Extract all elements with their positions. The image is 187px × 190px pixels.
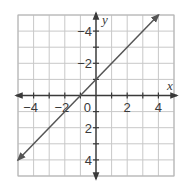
origin-label: 0: [84, 100, 91, 115]
y-axis-label: y: [100, 12, 108, 27]
x-tick-label: 4: [155, 100, 162, 115]
y-tick-label: 2: [85, 121, 92, 136]
y-tick-label: 4: [85, 153, 92, 168]
x-tick-label: −2: [54, 100, 69, 115]
x-tick-label: 2: [124, 100, 131, 115]
axes: [16, 13, 177, 179]
coordinate-plane: −4−22442−2−40xy: [0, 0, 187, 190]
y-tick-label: −4: [77, 24, 92, 39]
x-axis-label: x: [166, 78, 173, 93]
x-tick-label: −4: [23, 100, 38, 115]
y-tick-label: −2: [77, 56, 92, 71]
tick-labels: −4−22442−2−40xy: [23, 12, 173, 168]
